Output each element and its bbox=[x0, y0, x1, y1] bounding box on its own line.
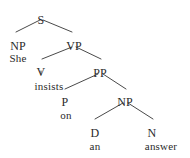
leaf-insists: insists bbox=[35, 81, 64, 92]
leaf-an: an bbox=[90, 141, 101, 152]
node-p: P bbox=[62, 96, 69, 108]
s-to-np-subject bbox=[16, 20, 40, 32]
node-s: S bbox=[38, 14, 45, 26]
node-np-subject: NP bbox=[10, 40, 26, 52]
leaf-she: She bbox=[9, 53, 26, 64]
node-d: D bbox=[91, 127, 100, 139]
node-vp: VP bbox=[66, 40, 82, 52]
node-pp: PP bbox=[93, 67, 107, 79]
node-v: V bbox=[37, 66, 46, 78]
leaf-on: on bbox=[60, 110, 71, 121]
leaf-answer: answer bbox=[145, 141, 177, 152]
node-n: N bbox=[148, 127, 157, 139]
node-np-object: NP bbox=[117, 96, 133, 108]
s-to-vp bbox=[43, 20, 72, 32]
syntax-tree-figure: S NP VP V PP P NP D N She insists on an … bbox=[0, 0, 190, 158]
